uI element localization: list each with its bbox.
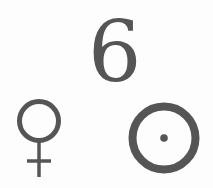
sun-icon [133,107,196,170]
symbols-drawing [0,0,213,188]
venus-icon [20,102,59,178]
symbol-plate: 6 [0,0,213,188]
